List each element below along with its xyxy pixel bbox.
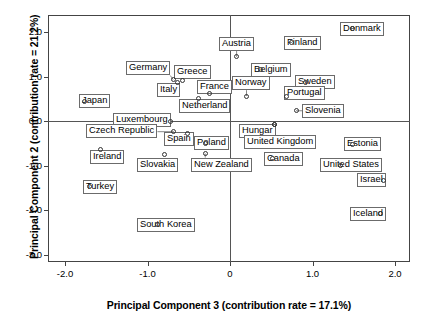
data-point xyxy=(162,152,167,157)
point-label: Slovenia xyxy=(302,104,344,118)
scatter-plot-figure: Principal Component 2 (contribution rate… xyxy=(0,0,424,322)
data-point xyxy=(381,178,386,183)
data-point xyxy=(272,122,277,127)
point-label: New Zealand xyxy=(191,158,252,172)
point-label: Norway xyxy=(232,76,270,90)
point-label: Ireland xyxy=(90,150,124,164)
point-label: Denmark xyxy=(340,22,384,36)
data-point xyxy=(303,80,308,85)
point-label: Italy xyxy=(157,83,180,97)
point-label: United Kingdom xyxy=(244,135,316,149)
point-label: Portugal xyxy=(284,86,325,100)
point-label: United States xyxy=(320,158,382,172)
data-point xyxy=(203,141,208,146)
data-point xyxy=(203,151,208,156)
point-label: Austria xyxy=(219,37,254,51)
point-label: South Korea xyxy=(137,218,195,232)
data-point xyxy=(338,163,343,168)
point-label: France xyxy=(197,80,232,94)
data-point xyxy=(196,96,201,101)
point-label: Greece xyxy=(174,65,211,79)
plot-area: 2.01.00.0-1.0-2.0-3.0-2.0-1.001.02.0Denm… xyxy=(0,0,424,322)
point-label: Germany xyxy=(126,61,170,75)
data-point xyxy=(350,142,355,147)
data-point xyxy=(98,147,103,152)
data-point xyxy=(180,78,185,83)
point-label: Netherland xyxy=(179,99,230,113)
data-point xyxy=(207,91,212,96)
data-point xyxy=(294,108,299,113)
point-label: Slovakia xyxy=(137,158,178,172)
data-point xyxy=(289,40,294,45)
point-label: Poland xyxy=(194,136,229,150)
point-label: Belgium xyxy=(251,63,291,77)
point-label: Czech Republic xyxy=(86,124,157,138)
data-point xyxy=(244,94,249,99)
data-point xyxy=(284,94,289,99)
data-point xyxy=(175,80,180,85)
